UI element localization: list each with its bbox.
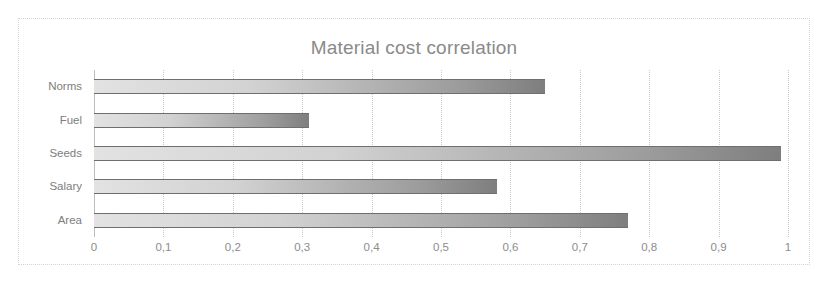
- bar-fuel[interactable]: [94, 113, 309, 128]
- category-label: Norms: [0, 79, 82, 94]
- bar-row[interactable]: Fuel: [94, 103, 788, 136]
- x-tick-label: 1: [785, 241, 791, 253]
- x-tick-label: 0,6: [502, 241, 518, 253]
- x-axis-tick-labels: 00,10,20,30,40,50,60,70,80,91: [94, 241, 788, 261]
- bar-area[interactable]: [94, 213, 628, 228]
- bar-seeds[interactable]: [94, 146, 781, 161]
- bar-row[interactable]: Area: [94, 204, 788, 237]
- category-label: Area: [0, 213, 82, 228]
- bar-row[interactable]: Norms: [94, 70, 788, 103]
- category-label: Fuel: [0, 113, 82, 128]
- x-tick-label: 0,4: [364, 241, 380, 253]
- bar-norms[interactable]: [94, 79, 545, 94]
- category-label: Seeds: [0, 146, 82, 161]
- x-tick-label: 0,3: [294, 241, 310, 253]
- bar-row[interactable]: Seeds: [94, 137, 788, 170]
- x-tick-label: 0,9: [711, 241, 727, 253]
- x-tick-label: 0,8: [641, 241, 657, 253]
- x-tick-label: 0,5: [433, 241, 449, 253]
- bar-salary[interactable]: [94, 179, 497, 194]
- category-label: Salary: [0, 179, 82, 194]
- x-tick-label: 0,7: [572, 241, 588, 253]
- x-tick-label: 0,1: [155, 241, 171, 253]
- gridline: [788, 70, 789, 237]
- bar-row[interactable]: Salary: [94, 170, 788, 203]
- plot-area: NormsFuelSeedsSalaryArea: [94, 70, 788, 237]
- x-tick-label: 0,2: [225, 241, 241, 253]
- chart-frame: Material cost correlation NormsFuelSeeds…: [18, 18, 810, 265]
- chart-title: Material cost correlation: [19, 37, 809, 59]
- x-tick-label: 0: [91, 241, 97, 253]
- bar-series: NormsFuelSeedsSalaryArea: [94, 70, 788, 237]
